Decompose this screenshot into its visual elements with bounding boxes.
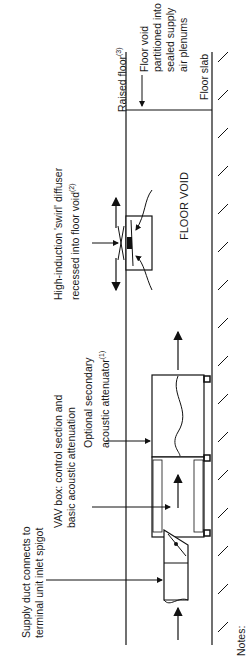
raised-floor-label: Raised floor(3) xyxy=(112,47,129,112)
swirl-diffuser xyxy=(92,190,152,290)
diffuser-label: High-induction 'swirl' diffuser recessed… xyxy=(52,168,82,300)
supply-duct-label: Supply duct connects to terminal unit in… xyxy=(20,527,46,639)
floor-slab-hatching xyxy=(218,52,228,632)
floor-void-partition-label: Floor void partitioned into sealed suppl… xyxy=(138,3,190,72)
floor-slab-label: Floor slab xyxy=(198,54,211,100)
attenuator-label: Optional secondary acoustic attenuator(1… xyxy=(82,351,112,448)
floor-void-label: FLOOR VOID xyxy=(178,172,191,240)
supply-duct xyxy=(46,530,188,640)
vav-box-label: VAV box: control section and basic acous… xyxy=(52,395,78,528)
secondary-attenuator xyxy=(106,375,204,457)
notes-label: Notes: xyxy=(235,626,248,656)
